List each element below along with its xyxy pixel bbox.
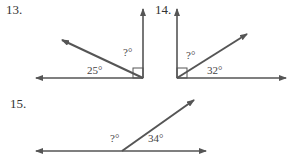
angle-diagrams: 13. 25° ?° 14. ?° 32° 15. ?° 34° <box>0 0 300 164</box>
problem-number: 14. <box>155 2 171 17</box>
known-angle-label: 32° <box>207 64 222 76</box>
known-angle-label: 25° <box>87 64 102 76</box>
problem-15: 15. ?° 34° <box>10 96 206 151</box>
problem-number: 15. <box>10 96 26 111</box>
known-angle-label: 34° <box>148 132 163 144</box>
unknown-angle-label: ?° <box>186 49 195 61</box>
problem-number: 13. <box>6 2 22 17</box>
unknown-angle-label: ?° <box>110 132 119 144</box>
problem-13: 13. 25° ?° <box>6 2 143 78</box>
problem-14: 14. ?° 32° <box>155 2 286 78</box>
unknown-angle-label: ?° <box>123 46 132 58</box>
